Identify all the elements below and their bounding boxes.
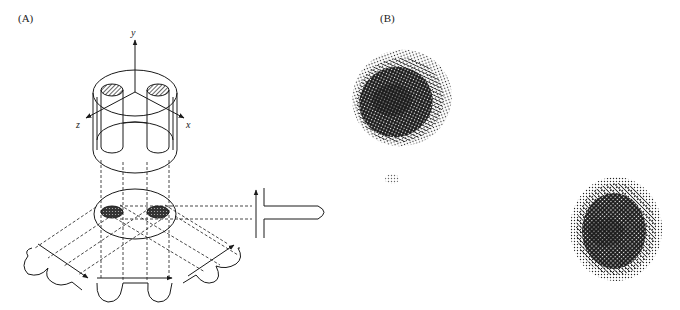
small-artifact	[385, 174, 399, 184]
rod-right-top	[147, 84, 169, 96]
rod-left-section	[101, 206, 123, 218]
diag-profile	[183, 248, 241, 283]
panel-b-image	[339, 36, 662, 281]
figure-canvas: y z x	[0, 0, 680, 310]
panel-a-diagram	[24, 40, 324, 302]
blob-top-left	[339, 36, 466, 160]
axis-label-y: y	[130, 27, 136, 38]
rod-left-top	[101, 84, 123, 96]
right-profile	[264, 188, 324, 238]
axis-label-z: z	[75, 119, 80, 130]
bottom-profile	[97, 283, 172, 302]
cylinder-bottom	[93, 150, 177, 173]
blob-bottom-right	[570, 177, 662, 281]
left-profile-axis	[38, 244, 88, 278]
axis-label-x: x	[185, 119, 191, 130]
rod-right-section	[147, 206, 169, 218]
